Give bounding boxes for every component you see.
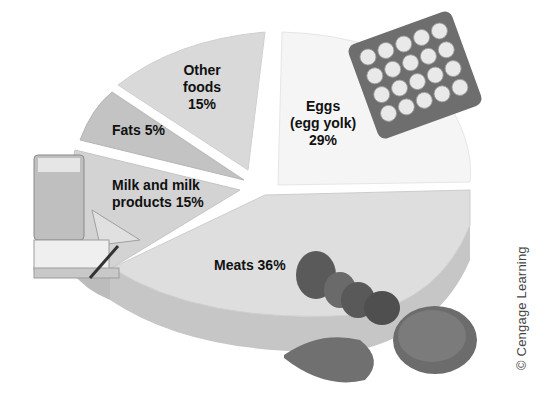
label-milk-line2: products 15% xyxy=(112,194,204,211)
label-other-line2: foods xyxy=(183,79,221,96)
label-other-line3: 15% xyxy=(183,96,221,113)
label-eggs-line1: Eggs xyxy=(290,98,356,115)
label-eggs-line2: (egg yolk) xyxy=(290,115,356,132)
label-fats: Fats 5% xyxy=(112,122,165,139)
label-milk-line1: Milk and milk xyxy=(112,177,204,194)
label-other-foods: Other foods 15% xyxy=(183,62,221,113)
label-eggs: Eggs (egg yolk) 29% xyxy=(290,98,356,149)
label-eggs-line3: 29% xyxy=(290,132,356,149)
label-meats: Meats 36% xyxy=(214,257,286,274)
copyright-credit: © Cengage Learning xyxy=(514,246,529,370)
pie-chart-graphic xyxy=(0,0,549,418)
label-other-line1: Other xyxy=(183,62,221,79)
label-milk: Milk and milk products 15% xyxy=(112,177,204,211)
pie-chart: Other foods 15% Fats 5% Milk and milk pr… xyxy=(0,0,549,418)
